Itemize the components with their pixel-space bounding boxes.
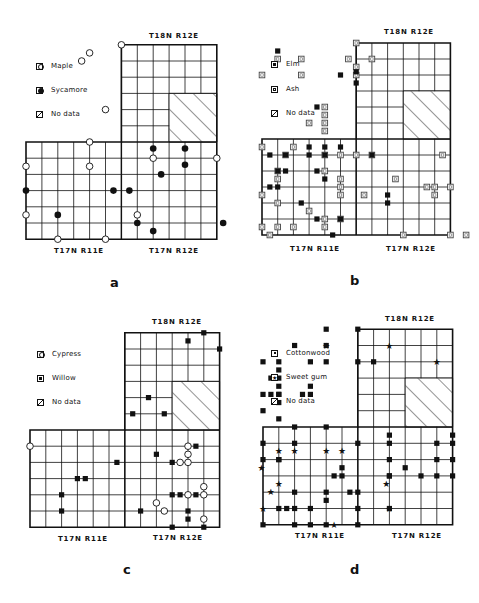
filled-square-marker (324, 359, 329, 364)
filled-circle-marker (150, 228, 157, 235)
label-t17n-r12e: T17N R12E (153, 534, 203, 542)
legend-item-cottonwood: Cottonwood (271, 349, 330, 357)
filled-square-marker (114, 460, 119, 465)
panel-letter-d: d (350, 562, 359, 577)
filled-square-marker (418, 473, 423, 478)
filled-square-marker (260, 457, 265, 462)
open-square-marker (291, 224, 297, 230)
filled-circle-marker (158, 171, 165, 178)
open-circle-icon (37, 351, 44, 358)
filled-square-marker (276, 457, 281, 462)
open-square-marker (353, 64, 359, 70)
open-square-marker (338, 192, 344, 198)
open-square-marker (432, 192, 438, 198)
open-square-icon (271, 86, 278, 93)
open-square-marker (259, 144, 265, 150)
grid-a (26, 45, 217, 239)
filled-circle-marker (110, 187, 117, 194)
open-square-marker (306, 120, 312, 126)
filled-square-marker (162, 411, 167, 416)
filled-square-marker (185, 338, 190, 343)
legend-item-no-data: No data (37, 398, 81, 406)
open-square-marker (322, 168, 328, 174)
filled-circle-icon (36, 87, 43, 94)
label-t18n-r12e: T18N R12E (152, 318, 202, 326)
filled-square-marker (276, 359, 281, 364)
filled-square-marker (450, 433, 455, 438)
legend-label: Sycamore (51, 86, 87, 94)
open-circle-marker (150, 155, 157, 162)
legend-label: Sweet gum (286, 373, 327, 381)
label-t17n-r11e: T17N R11E (54, 247, 104, 255)
open-square-marker (322, 216, 328, 222)
open-circle-marker (86, 163, 93, 170)
filled-square-marker (283, 152, 288, 157)
filled-square-marker (332, 473, 337, 478)
filled-square-marker (314, 104, 319, 109)
filled-square-marker (308, 384, 313, 389)
open-square-marker (401, 232, 407, 238)
open-square-marker (338, 152, 344, 158)
filled-square-marker (276, 384, 281, 389)
legend-label: Willow (52, 374, 76, 382)
filled-square-marker (146, 395, 151, 400)
legend-label: No data (286, 397, 315, 405)
filled-circle-marker (182, 161, 189, 168)
filled-square-marker (260, 392, 265, 397)
legend-label: Cottonwood (286, 349, 330, 357)
filled-square-marker (267, 184, 272, 189)
filled-square-marker (314, 216, 319, 221)
label-t17n-r12e: T17N R12E (392, 532, 442, 540)
panel-b: T18N R12E T17N R11E T17N R12E Elm Ash No… (240, 0, 479, 300)
label-t17n-r12e: T17N R12E (149, 247, 199, 255)
open-circle-marker (185, 459, 192, 466)
filled-square-marker (292, 506, 297, 511)
filled-square-marker (387, 473, 392, 478)
open-circle-marker (118, 42, 125, 49)
open-circle-marker (161, 508, 168, 515)
filled-square-marker (201, 525, 206, 530)
filled-circle-marker (220, 220, 227, 227)
open-square-marker (322, 224, 328, 230)
open-circle-icon (36, 63, 43, 70)
open-square-marker (424, 184, 430, 190)
open-square-marker (259, 192, 265, 198)
open-square-marker (322, 104, 328, 110)
filled-square-marker (324, 424, 329, 429)
filled-square-marker (385, 200, 390, 205)
filled-square-marker (354, 69, 359, 74)
open-circle-marker (23, 163, 30, 170)
filled-square-marker (275, 184, 280, 189)
markers-d: ★★★★★★★★★★★★★★ (257, 327, 455, 530)
legend-label: No data (52, 398, 81, 406)
open-square-marker (448, 232, 454, 238)
label-t18n-r12e: T18N R12E (384, 28, 434, 36)
open-square-marker (275, 224, 281, 230)
open-circle-marker (185, 443, 192, 450)
open-square-marker (259, 224, 265, 230)
filled-square-marker (354, 80, 359, 85)
filled-square-marker (276, 367, 281, 372)
star-marker: ★ (291, 446, 299, 456)
star-marker: ★ (330, 520, 338, 530)
open-square-marker (463, 232, 469, 238)
filled-square-marker (308, 359, 313, 364)
open-square-marker (322, 120, 328, 126)
open-square-marker (361, 192, 367, 198)
filled-square-marker (355, 441, 360, 446)
filled-square-marker (260, 522, 265, 527)
map-a (0, 0, 239, 300)
open-circle-marker (86, 50, 93, 57)
open-circle-marker (134, 212, 141, 219)
filled-square-marker (292, 490, 297, 495)
legend-label: Elm (286, 60, 300, 68)
filled-square-icon (271, 350, 278, 357)
filled-square-marker (450, 457, 455, 462)
filled-square-marker (138, 508, 143, 513)
panel-letter-b: b (350, 273, 359, 288)
star-marker: ★ (385, 341, 393, 351)
grid-c (30, 333, 220, 527)
filled-square-marker (170, 525, 175, 530)
filled-square-marker (260, 441, 265, 446)
open-square-marker (275, 200, 281, 206)
